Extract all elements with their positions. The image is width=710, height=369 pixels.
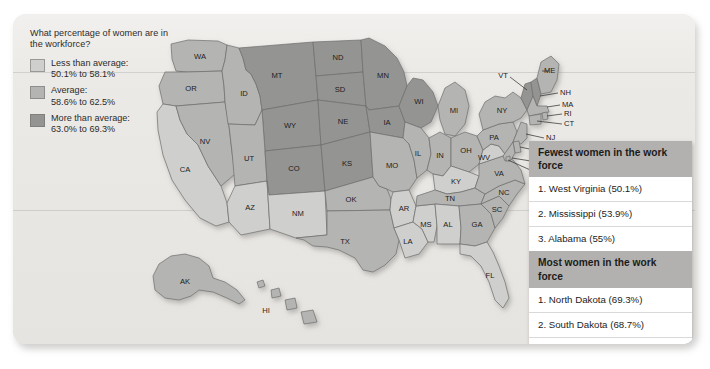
state-CT[interactable]: [529, 114, 541, 125]
state-label-MT: MT: [272, 71, 283, 80]
state-label-NV: NV: [200, 137, 211, 146]
leader-line-MA: [547, 105, 560, 107]
legend-entry-high: More than average: 63.0% to 69.3%: [30, 113, 180, 136]
state-label-IN: IN: [436, 151, 444, 160]
most-item-2: 2. South Dakota (68.7%): [529, 313, 692, 338]
fewest-item-2: 2. Mississippi (53.9%): [529, 202, 692, 227]
fewest-header: Fewest women in the work force: [529, 141, 692, 177]
state-label-MA: MA: [562, 100, 574, 109]
state-label-WY: WY: [284, 121, 296, 130]
state-label-ID: ID: [240, 89, 248, 98]
leader-line-NJ: [526, 134, 544, 138]
state-label-KY: KY: [451, 177, 461, 186]
state-label-NE: NE: [338, 117, 349, 126]
state-label-AZ: AZ: [245, 203, 255, 212]
state-label-UT: UT: [244, 154, 254, 163]
state-label-CA: CA: [180, 165, 191, 174]
state-label-MO: MO: [386, 161, 398, 170]
state-label-NM: NM: [292, 209, 304, 218]
state-label-AR: AR: [399, 204, 410, 213]
state-label-VT: VT: [498, 71, 508, 80]
state-label-WV: WV: [478, 153, 491, 162]
state-label-SC: SC: [492, 205, 503, 214]
state-FL[interactable]: [460, 242, 509, 308]
state-label-CO: CO: [288, 164, 299, 173]
state-label-WA: WA: [194, 52, 207, 61]
state-label-MN: MN: [377, 71, 389, 80]
state-label-OH: OH: [460, 146, 471, 155]
state-label-IL: IL: [415, 149, 421, 158]
state-label-GA: GA: [472, 220, 484, 229]
state-label-MI: MI: [450, 106, 458, 115]
state-label-OR: OR: [185, 84, 197, 93]
state-label-MS: MS: [420, 220, 431, 229]
state-label-NC: NC: [499, 188, 510, 197]
state-HI[interactable]: [257, 280, 317, 324]
legend-entry-low: Less than average: 50.1% to 58.1%: [30, 58, 180, 81]
state-label-KS: KS: [342, 159, 352, 168]
state-label-NY: NY: [497, 106, 508, 115]
most-item-1: 1. North Dakota (69.3%): [529, 288, 692, 313]
state-label-VA: VA: [494, 169, 505, 178]
fewest-item-3: 3. Alabama (55%): [529, 227, 692, 251]
state-ME[interactable]: [537, 56, 559, 94]
fewest-item-1: 1. West Virginia (50.1%): [529, 177, 692, 202]
state-label-ND: ND: [333, 53, 344, 62]
legend-label-high: More than average: 63.0% to 69.3%: [51, 113, 130, 136]
state-label-ME: ME: [544, 66, 555, 75]
legend-label-mid: Average: 58.6% to 62.5%: [51, 85, 115, 108]
state-label-SD: SD: [335, 85, 346, 94]
state-label-AK: AK: [180, 277, 190, 286]
most-header: Most women in the work force: [529, 251, 692, 287]
map-landmass: [153, 38, 559, 324]
state-label-WI: WI: [414, 97, 423, 106]
page-root: WA OR CA NV ID MT WY UT CO AZ NM ND SD N…: [0, 0, 710, 369]
state-label-PA: PA: [489, 133, 500, 142]
state-label-HI: HI: [262, 306, 270, 315]
leader-line-VT: [510, 77, 527, 90]
state-label-NH: NH: [560, 88, 571, 97]
leader-line-RI: [547, 114, 562, 116]
state-label-OK: OK: [346, 195, 357, 204]
state-label-LA: LA: [403, 237, 413, 246]
legend-swatch-low: [30, 59, 45, 72]
rankings-infobox: Fewest women in the work force 1. West V…: [529, 141, 692, 344]
most-item-3: 3. Minnesota (67.6%): [529, 338, 692, 344]
legend-label-low: Less than average: 50.1% to 58.1%: [51, 58, 128, 81]
state-label-RI: RI: [564, 109, 572, 118]
state-label-TN: TN: [445, 194, 455, 203]
legend-swatch-mid: [30, 86, 45, 99]
state-label-CT: CT: [564, 119, 574, 128]
state-AK[interactable]: [153, 254, 245, 304]
legend-entry-mid: Average: 58.6% to 62.5%: [30, 85, 180, 108]
legend-swatch-high: [30, 114, 45, 127]
map-legend: What percentage of women are in the work…: [30, 28, 180, 141]
state-label-IA: IA: [383, 118, 391, 127]
state-label-AL: AL: [443, 220, 452, 229]
state-label-TX: TX: [340, 237, 350, 246]
state-label-FL: FL: [486, 271, 495, 280]
map-figure-panel: WA OR CA NV ID MT WY UT CO AZ NM ND SD N…: [13, 14, 695, 344]
legend-title: What percentage of women are in the work…: [30, 28, 180, 51]
